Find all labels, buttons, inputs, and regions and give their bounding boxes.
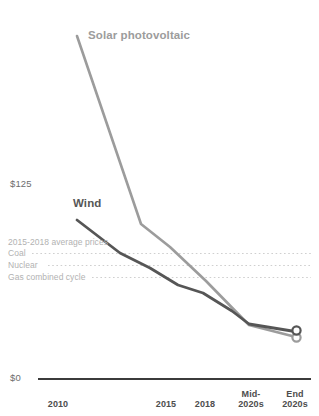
series-label-solar-photovoltaic: Solar photovoltaic	[88, 29, 190, 42]
x-axis-tick-2018: 2018	[185, 399, 225, 409]
chart-plot-area	[0, 0, 319, 416]
x-axis-tick-end-2020s: End 2020s	[272, 389, 318, 410]
x-axis-tick-end-2020s-line2: 2020s	[272, 399, 318, 409]
series-endpoint-marker-wind	[292, 326, 300, 334]
benchmark-heading: 2015-2018 average prices	[8, 238, 108, 248]
x-axis-tick-mid-2020s-line1: Mid-	[228, 389, 274, 399]
x-axis-tick-end-2020s-line1: End	[272, 389, 318, 399]
x-axis-tick-2010: 2010	[38, 399, 78, 409]
x-axis-tick-2015: 2015	[146, 399, 186, 409]
series-line-solar-photovoltaic	[77, 36, 292, 336]
y-axis-label-top: $125	[10, 179, 32, 190]
benchmark-label-coal: Coal	[8, 249, 26, 259]
series-line-wind	[77, 220, 292, 331]
x-axis-tick-mid-2020s: Mid- 2020s	[228, 389, 274, 410]
benchmark-label-gas: Gas combined cycle	[8, 273, 85, 283]
series-label-wind: Wind	[73, 197, 101, 210]
levelized-cost-line-chart: $125 $0 Solar photovoltaic Wind 2015-201…	[0, 0, 319, 416]
y-axis-label-zero: $0	[10, 373, 21, 384]
x-axis-tick-mid-2020s-line2: 2020s	[228, 399, 274, 409]
benchmark-label-nuclear: Nuclear	[8, 261, 38, 271]
